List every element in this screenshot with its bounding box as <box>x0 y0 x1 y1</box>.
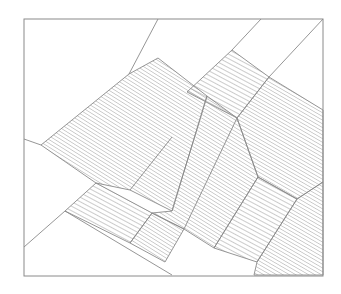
hatched-regions <box>41 50 323 275</box>
diagram-canvas <box>0 0 341 294</box>
top-right-diagonal-b-line <box>269 19 323 77</box>
lower-left-diagonal-line <box>24 211 65 247</box>
top-right-diagonal-a-line <box>232 19 261 50</box>
left-edge-line-line <box>24 139 41 145</box>
hatched-geometric-diagram <box>0 0 341 294</box>
